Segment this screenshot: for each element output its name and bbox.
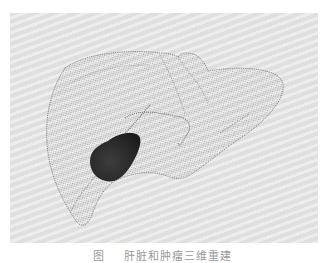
- liver-mesh: [47, 52, 284, 226]
- liver-3d-rendering: [10, 13, 318, 243]
- caption-text: 肝脏和肿瘤三维重建: [124, 250, 232, 263]
- caption-label: 图: [93, 250, 110, 263]
- figure-image: [10, 13, 318, 243]
- figure-caption: 图 肝脏和肿瘤三维重建: [0, 247, 325, 263]
